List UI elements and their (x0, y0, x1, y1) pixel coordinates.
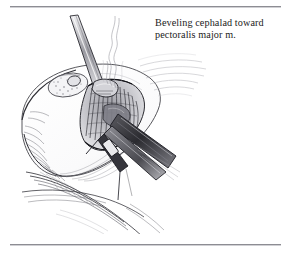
top-rule (10, 6, 281, 7)
lower-diagonal-strokes (56, 210, 108, 234)
bottom-rule (10, 244, 281, 245)
surgical-illustration: Surgical line drawing: beveling cephalad… (0, 14, 292, 234)
drape-folds (22, 172, 164, 234)
figure-page: Beveling cephalad toward pectoralis majo… (0, 0, 292, 259)
